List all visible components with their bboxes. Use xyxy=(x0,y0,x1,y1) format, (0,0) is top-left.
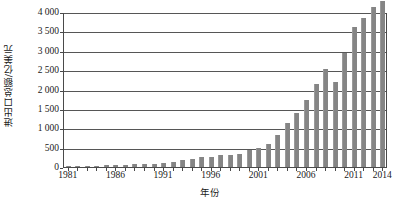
bar xyxy=(352,27,357,168)
bar xyxy=(314,84,319,168)
axis-line-left xyxy=(63,13,64,168)
bar xyxy=(275,135,280,168)
y-axis-tick-label: 4 000 xyxy=(38,8,59,18)
bar xyxy=(266,144,271,168)
x-axis-tick-label: 2006 xyxy=(297,171,316,181)
x-axis-tick-label: 2011 xyxy=(344,171,363,181)
bars-series xyxy=(63,13,387,168)
y-axis-tick-labels: 05001 0001 5002 0002 5003 0003 5004 000 xyxy=(14,0,62,172)
bar xyxy=(304,100,309,168)
x-axis-title: 年份 xyxy=(150,188,270,198)
bar xyxy=(247,150,252,168)
x-axis-tick-labels: 19811986199119962001200620112014 xyxy=(63,171,387,187)
bar xyxy=(256,148,261,168)
bar xyxy=(380,1,385,168)
bar xyxy=(333,82,338,168)
y-axis-tick-label: 2 000 xyxy=(38,86,59,96)
x-axis-tick-label: 1986 xyxy=(106,171,125,181)
x-axis-tick-label: 1991 xyxy=(154,171,173,181)
bar xyxy=(323,69,328,168)
y-axis-tick-label: 3 500 xyxy=(38,28,59,38)
y-axis-title-text: 进出口总额/亿美元 xyxy=(4,44,14,127)
bar xyxy=(294,113,299,168)
plot-area xyxy=(63,13,387,168)
y-axis-tick-label: 1 500 xyxy=(38,105,59,115)
x-axis-tick-label: 1981 xyxy=(58,171,77,181)
y-axis-tick-label: 1 000 xyxy=(38,125,59,135)
x-axis-tick-label: 2001 xyxy=(249,171,268,181)
y-axis-tick-label: 2 500 xyxy=(38,66,59,76)
x-axis-tick-label: 1996 xyxy=(201,171,220,181)
x-axis-tick-label: 2014 xyxy=(373,171,392,181)
axis-line-right xyxy=(386,13,387,168)
y-axis-tick-label: 500 xyxy=(45,144,59,154)
bar xyxy=(342,53,347,168)
import-export-bar-chart: 进出口总额/亿美元 05001 0001 5002 0002 5003 0003… xyxy=(0,0,396,216)
bar xyxy=(361,18,366,168)
y-axis-tick-label: 3 000 xyxy=(38,47,59,57)
bar xyxy=(237,154,242,168)
bar xyxy=(371,7,376,168)
bar xyxy=(285,123,290,168)
